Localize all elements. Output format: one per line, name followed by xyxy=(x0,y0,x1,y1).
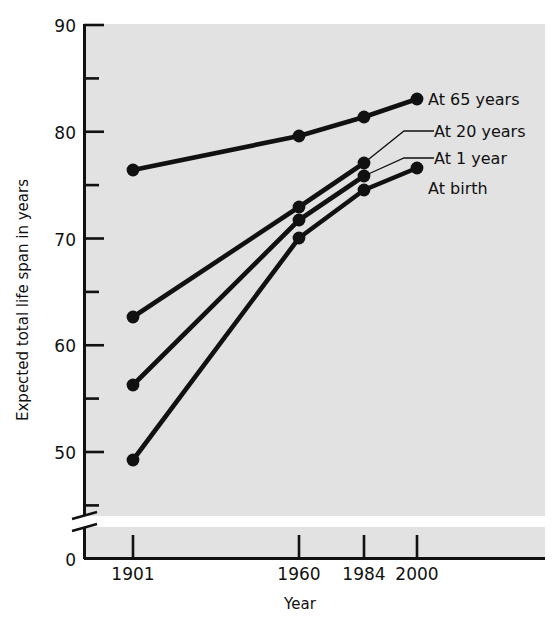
x-axis-title: Year xyxy=(283,595,317,613)
life-span-line-chart: 90 80 70 60 50 0 1901 1960 1984 2000 Yea… xyxy=(0,0,555,620)
axis-break-gap xyxy=(84,516,545,527)
series-label-at-65-years: At 65 years xyxy=(428,90,520,109)
data-point xyxy=(411,162,424,175)
y-tick-label-0: 0 xyxy=(65,550,76,570)
y-tick-label-70: 70 xyxy=(54,230,76,250)
data-point xyxy=(293,201,306,214)
series-label-at-1-year: At 1 year xyxy=(434,149,507,168)
series-label-at-birth: At birth xyxy=(428,179,488,198)
y-tick-label-50: 50 xyxy=(54,443,76,463)
data-point xyxy=(127,164,140,177)
y-tick-label-90: 90 xyxy=(54,16,76,36)
y-tick-label-80: 80 xyxy=(54,123,76,143)
y-axis-title: Expected total life span in years xyxy=(14,179,32,421)
x-tick-label-1960: 1960 xyxy=(277,564,320,584)
data-point xyxy=(127,311,140,324)
data-point xyxy=(411,93,424,106)
x-tick-label-2000: 2000 xyxy=(395,564,438,584)
chart-figure: 90 80 70 60 50 0 1901 1960 1984 2000 Yea… xyxy=(0,0,555,620)
data-point xyxy=(293,130,306,143)
data-point xyxy=(358,111,371,124)
x-tick-label-1984: 1984 xyxy=(342,564,385,584)
data-point xyxy=(127,454,140,467)
x-tick-label-1901: 1901 xyxy=(111,564,154,584)
data-point xyxy=(127,379,140,392)
plot-background-lower xyxy=(84,527,545,559)
data-point xyxy=(293,232,306,245)
data-point xyxy=(358,184,371,197)
data-point xyxy=(293,214,306,227)
series-label-at-20-years: At 20 years xyxy=(434,122,526,141)
y-tick-label-60: 60 xyxy=(54,336,76,356)
